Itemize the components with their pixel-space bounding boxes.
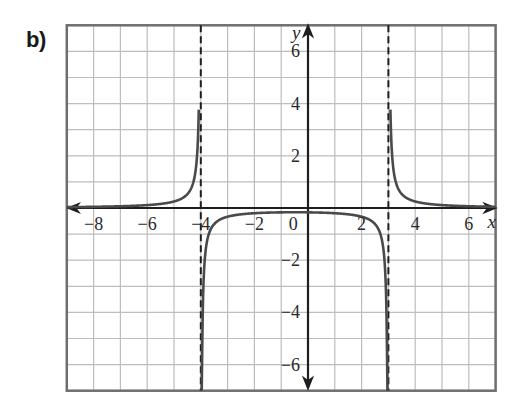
y-axis-label: y — [290, 22, 301, 43]
x-tick-label: −4 — [191, 214, 210, 234]
y-tick-label: 4 — [291, 94, 300, 114]
x-tick-label: −6 — [138, 214, 157, 234]
y-tick-label: −2 — [281, 250, 300, 270]
curve-branch-1 — [67, 110, 199, 208]
rational-function-graph: −8−6−4−20246642−2−4−6xy — [0, 0, 516, 412]
x-tick-label: 0 — [289, 214, 298, 234]
x-tick-label: 6 — [464, 214, 473, 234]
y-tick-label: 2 — [291, 146, 300, 166]
x-tick-label: 2 — [357, 214, 366, 234]
x-axis-label: x — [487, 211, 497, 232]
tick-labels: −8−6−4−20246642−2−4−6xy — [84, 22, 497, 374]
y-tick-label: 6 — [291, 41, 300, 61]
y-tick-label: −6 — [281, 355, 300, 375]
curve-branch-3 — [390, 110, 495, 207]
x-tick-label: −2 — [245, 214, 264, 234]
y-tick-label: −4 — [281, 302, 300, 322]
x-tick-label: −8 — [84, 214, 103, 234]
x-tick-label: 4 — [411, 214, 420, 234]
